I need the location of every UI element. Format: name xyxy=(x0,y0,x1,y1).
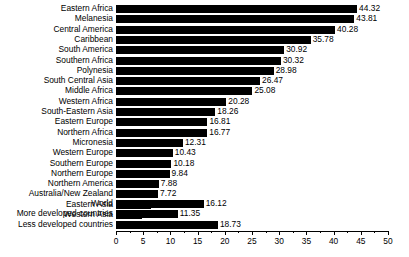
bar-row-central-america: Central America40.28 xyxy=(0,26,409,34)
bar xyxy=(116,77,260,85)
x-tick-minor xyxy=(130,231,131,233)
x-tick-minor xyxy=(347,231,348,233)
bar-row-australia-new-zealand: Australia/New Zealand7.72 xyxy=(0,190,409,198)
category-label: Central America xyxy=(0,25,113,34)
x-tick-minor xyxy=(320,231,321,233)
bar-row-melanesia: Melanesia43.81 xyxy=(0,15,409,23)
category-label: Western Europe xyxy=(0,148,113,157)
bar-value-label: 30.92 xyxy=(284,45,307,54)
x-tick-label: 35 xyxy=(294,237,318,246)
bar-value-label: 18.73 xyxy=(218,220,241,229)
bar-value-label: 40.28 xyxy=(335,25,358,34)
bar-value-label: 30.32 xyxy=(281,56,304,65)
category-label: Less developed countries xyxy=(0,220,113,229)
bar-row-more-developed-countries: More developed countries11.35 xyxy=(0,210,409,218)
bar xyxy=(116,170,170,178)
bar-value-label: 25.08 xyxy=(252,86,275,95)
x-tick-major xyxy=(334,231,335,235)
bar-row-northern-africa: Northern Africa16.77 xyxy=(0,129,409,137)
bar-row-south-eastern-asia: South-Eastern Asia18.26 xyxy=(0,108,409,116)
category-label: South America xyxy=(0,45,113,54)
x-tick-label: 40 xyxy=(322,237,346,246)
bar-value-label: 26.47 xyxy=(260,76,283,85)
x-tick-label: 30 xyxy=(267,237,291,246)
bar-row-western-europe: Western Europe10.43 xyxy=(0,149,409,157)
bar-value-label: 16.81 xyxy=(207,117,230,126)
bar-value-label: 7.88 xyxy=(159,179,177,188)
x-tick-major xyxy=(198,231,199,235)
bar xyxy=(116,200,204,208)
bar xyxy=(116,180,159,188)
bar-row-southern-africa: Southern Africa30.32 xyxy=(0,57,409,65)
bar-row-eastern-africa: Eastern Africa44.32 xyxy=(0,5,409,13)
bar-value-label: 28.98 xyxy=(274,66,297,75)
category-label: Northern Africa xyxy=(0,128,113,137)
category-label: Polynesia xyxy=(0,66,113,75)
category-label: More developed countries xyxy=(0,209,113,218)
bar-value-label: 18.26 xyxy=(215,107,238,116)
x-tick-major xyxy=(252,231,253,235)
bar-value-label: 20.28 xyxy=(226,97,249,106)
category-label: Caribbean xyxy=(0,35,113,44)
bar-value-label: 35.78 xyxy=(311,35,334,44)
category-label: Southern Africa xyxy=(0,56,113,65)
x-tick-minor xyxy=(157,231,158,233)
category-label: Middle Africa xyxy=(0,86,113,95)
bar xyxy=(116,87,252,95)
bar xyxy=(116,98,226,106)
x-tick-minor xyxy=(184,231,185,233)
bar-value-label: 44.32 xyxy=(357,4,380,13)
x-tick-label: 10 xyxy=(158,237,182,246)
bar xyxy=(116,26,335,34)
x-tick-major xyxy=(170,231,171,235)
bar-chart: Eastern Africa44.32Melanesia43.81Central… xyxy=(0,0,409,257)
bar xyxy=(116,129,207,137)
bar-row-south-central-asia: South Central Asia26.47 xyxy=(0,77,409,85)
bar-row-southern-europe: Southern Europe10.18 xyxy=(0,160,409,168)
bar-row-northern-europe: Northern Europe9.84 xyxy=(0,170,409,178)
bar xyxy=(116,5,357,13)
category-label: South-Eastern Asia xyxy=(0,107,113,116)
x-tick-label: 5 xyxy=(131,237,155,246)
bar-value-label: 9.84 xyxy=(170,169,188,178)
x-tick-label: 20 xyxy=(213,237,237,246)
category-label: Southern Europe xyxy=(0,159,113,168)
bar xyxy=(116,36,311,44)
bar-value-label: 7.72 xyxy=(158,189,176,198)
category-label: Northern America xyxy=(0,179,113,188)
bar-value-label: 16.12 xyxy=(204,199,227,208)
category-label: Eastern Africa xyxy=(0,4,113,13)
x-tick-major xyxy=(225,231,226,235)
x-tick-label: 15 xyxy=(186,237,210,246)
bar-row-south-america: South America30.92 xyxy=(0,46,409,54)
x-tick-label: 0 xyxy=(104,237,128,246)
bar-row-polynesia: Polynesia28.98 xyxy=(0,67,409,75)
x-tick-minor xyxy=(374,231,375,233)
x-tick-major xyxy=(279,231,280,235)
bar xyxy=(116,139,183,147)
x-tick-major xyxy=(388,231,389,235)
bar-row-northern-america: Northern America7.88 xyxy=(0,180,409,188)
category-label: South Central Asia xyxy=(0,76,113,85)
x-tick-major xyxy=(306,231,307,235)
bar xyxy=(116,15,354,23)
x-tick-major xyxy=(361,231,362,235)
bar-value-label: 11.35 xyxy=(178,209,200,218)
bar-row-micronesia: Micronesia12.31 xyxy=(0,139,409,147)
bar-row-world: World16.12 xyxy=(0,200,409,208)
bar xyxy=(116,67,274,75)
x-tick-label: 25 xyxy=(240,237,264,246)
bar-row-western-africa: Western Africa20.28 xyxy=(0,98,409,106)
category-label: Northern Europe xyxy=(0,169,113,178)
bar xyxy=(116,57,281,65)
x-tick-minor xyxy=(266,231,267,233)
bar-value-label: 10.18 xyxy=(171,159,194,168)
bar xyxy=(116,149,173,157)
bar-value-label: 10.43 xyxy=(173,148,196,157)
x-tick-minor xyxy=(293,231,294,233)
x-tick-major xyxy=(143,231,144,235)
x-tick-minor xyxy=(238,231,239,233)
category-label: Western Africa xyxy=(0,97,113,106)
category-label: Melanesia xyxy=(0,14,113,23)
bar-row-middle-africa: Middle Africa25.08 xyxy=(0,87,409,95)
